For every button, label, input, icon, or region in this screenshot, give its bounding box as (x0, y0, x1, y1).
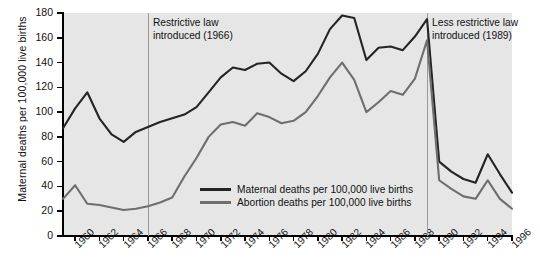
series-lines (0, 0, 540, 275)
legend-swatch-abortion (200, 201, 231, 204)
legend-item-maternal: Maternal deaths per 100,000 live births (200, 183, 413, 196)
legend: Maternal deaths per 100,000 live births … (200, 183, 413, 209)
line-maternal-deaths (63, 15, 512, 192)
legend-label-maternal: Maternal deaths per 100,000 live births (237, 184, 413, 195)
legend-label-abortion: Abortion deaths per 100,000 live births (237, 197, 411, 208)
legend-item-abortion: Abortion deaths per 100,000 live births (200, 196, 413, 209)
legend-swatch-maternal (200, 188, 231, 191)
figure: Maternal deaths per 100,000 live births … (0, 0, 540, 275)
